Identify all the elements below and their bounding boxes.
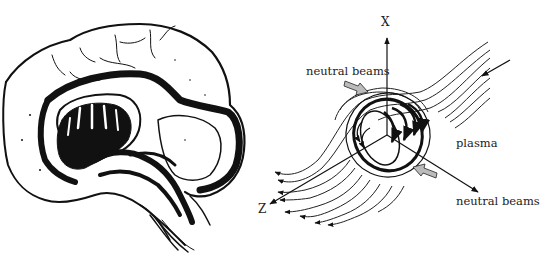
figure-canvas: X Z neutral beams plasma neutral beams (0, 0, 540, 265)
axis-x-label: X (381, 16, 390, 28)
neutral-beams-label-top: neutral beams (306, 66, 390, 78)
plasma-diagram (0, 0, 540, 265)
axis-z-label: Z (258, 203, 266, 215)
neutral-beams-label-bottom: neutral beams (456, 196, 540, 208)
plasma-label: plasma (456, 138, 498, 150)
